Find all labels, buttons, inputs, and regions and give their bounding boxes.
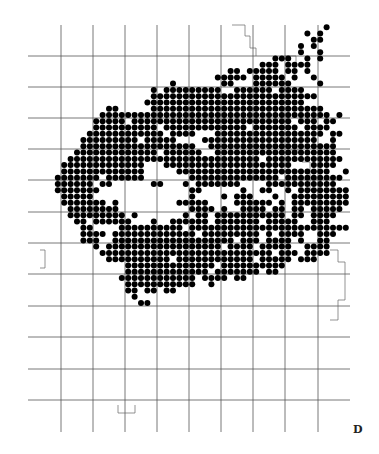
occurrence-dot [292,219,298,225]
occurrence-dot [196,237,202,243]
occurrence-dot [183,231,189,237]
occurrence-dot [240,200,246,206]
occurrence-dot [208,118,214,124]
occurrence-dot [202,275,208,281]
occurrence-dot [138,225,144,231]
occurrence-dot [138,231,144,237]
occurrence-dot [247,175,253,181]
occurrence-dot [317,175,323,181]
occurrence-dot [144,237,150,243]
occurrence-dot [330,231,336,237]
occurrence-dot [260,137,266,143]
occurrence-dot [208,275,214,281]
occurrence-dot [240,212,246,218]
occurrence-dot [215,225,221,231]
occurrence-dot [221,263,227,269]
occurrence-dot [240,143,246,149]
occurrence-dot [93,187,99,193]
occurrence-dot [330,194,336,200]
occurrence-dot [112,162,118,168]
occurrence-dot [279,93,285,99]
occurrence-dot [208,225,214,231]
occurrence-dot [272,112,278,118]
occurrence-dot [157,269,163,275]
occurrence-dot [157,256,163,262]
occurrence-dot [260,143,266,149]
occurrence-dot [221,275,227,281]
occurrence-dot [279,250,285,256]
occurrence-dot [132,225,138,231]
occurrence-dot [125,143,131,149]
occurrence-dot [234,194,240,200]
occurrence-dot [298,206,304,212]
occurrence-dot [144,150,150,156]
occurrence-dot [298,143,304,149]
occurrence-dot [151,131,157,137]
occurrence-dot [343,168,349,174]
occurrence-dot [176,244,182,250]
occurrence-dot [93,125,99,131]
occurrence-dot [202,237,208,243]
occurrence-dot [138,168,144,174]
occurrence-dot [100,168,106,174]
occurrence-dot [240,162,246,168]
occurrence-dot [330,137,336,143]
occurrence-dot [253,87,259,93]
occurrence-dot [317,231,323,237]
occurrence-dot [234,106,240,112]
occurrence-dot [119,256,125,262]
occurrence-dot [298,137,304,143]
occurrence-dot [87,212,93,218]
occurrence-dot [247,137,253,143]
occurrence-dot [106,143,112,149]
occurrence-dot [234,112,240,118]
occurrence-dot [221,175,227,181]
occurrence-dot [125,256,131,262]
occurrence-dot [68,206,74,212]
occurrence-dot [330,131,336,137]
occurrence-dot [144,112,150,118]
occurrence-dot [119,219,125,225]
occurrence-dot [247,112,253,118]
occurrence-dot [189,237,195,243]
occurrence-dot [202,256,208,262]
occurrence-dot [336,131,342,137]
occurrence-dot [311,93,317,99]
occurrence-dot [144,256,150,262]
occurrence-dot [151,156,157,162]
occurrence-dot [285,168,291,174]
occurrence-dot [311,137,317,143]
occurrence-dot [100,143,106,149]
occurrence-dot [285,187,291,193]
occurrence-dot [176,162,182,168]
occurrence-dot [228,81,234,87]
occurrence-dot [285,118,291,124]
occurrence-dot [132,175,138,181]
occurrence-dot [240,156,246,162]
occurrence-dot [176,87,182,93]
occurrence-dot [100,137,106,143]
occurrence-dot [183,256,189,262]
occurrence-dot [304,118,310,124]
occurrence-dot [208,156,214,162]
occurrence-dot [119,231,125,237]
occurrence-dot [304,143,310,149]
occurrence-dot [106,150,112,156]
occurrence-dot [183,269,189,275]
occurrence-dot [100,162,106,168]
occurrence-dot [164,237,170,243]
occurrence-dot [125,225,131,231]
occurrence-dot [144,225,150,231]
occurrence-dot [61,200,67,206]
occurrence-dot [336,112,342,118]
occurrence-dot [215,212,221,218]
occurrence-dot [87,143,93,149]
occurrence-dot [285,137,291,143]
occurrence-dot [292,112,298,118]
occurrence-dot [240,244,246,250]
occurrence-dot [196,263,202,269]
occurrence-dot [170,131,176,137]
occurrence-dot [221,181,227,187]
occurrence-dot [132,125,138,131]
occurrence-dot [228,137,234,143]
